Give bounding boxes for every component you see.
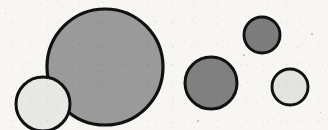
medium-dark-circle-center-right: [185, 57, 237, 109]
small-light-circle-bottom-right: [272, 69, 308, 105]
circles-illustration: [0, 0, 328, 130]
light-circle-bottom-left: [16, 77, 70, 130]
figure-canvas: [0, 0, 328, 130]
small-dark-circle-top-right: [244, 17, 280, 53]
